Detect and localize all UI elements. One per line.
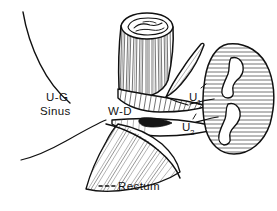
u2-label-subscript: 2 <box>190 128 195 137</box>
urogenital-sinus-contour <box>21 12 106 160</box>
rectum-label: Rectum <box>118 180 160 192</box>
w-d-label: W-D <box>108 105 132 117</box>
u-g-sinus-label-line1: U-G <box>46 91 68 103</box>
figure-canvas: U-G Sinus W-D U 1 U 2 Rectum <box>0 0 277 211</box>
u1-label-subscript: 1 <box>197 98 202 107</box>
u-g-sinus-label-line2: Sinus <box>40 105 71 117</box>
cut-cylinder-tube <box>119 13 174 100</box>
anatomical-figure: U-G Sinus W-D U 1 U 2 Rectum <box>0 0 277 211</box>
